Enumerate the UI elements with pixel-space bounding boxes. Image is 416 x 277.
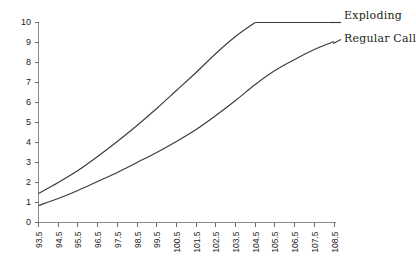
y-tick-label: 6 [26, 97, 31, 107]
y-tick-label: 8 [26, 57, 31, 67]
x-tick-label: 107.5 [310, 231, 320, 253]
legend-swatch-regular-call [333, 40, 341, 44]
y-tick-label: 1 [26, 197, 31, 207]
x-tick-label: 101.5 [192, 231, 202, 253]
x-tick-label: 97.5 [113, 231, 123, 248]
y-tick-label: 4 [26, 137, 31, 147]
series-layer [39, 23, 335, 206]
x-tick-label: 104.5 [251, 231, 261, 253]
legend-label-exploding: Exploding [344, 9, 402, 22]
legend-swatches [330, 23, 341, 44]
y-tick-label: 2 [26, 177, 31, 187]
x-tick-label: 102.5 [211, 231, 221, 253]
x-tick-label: 100.5 [172, 231, 182, 253]
y-tick-label: 9 [26, 37, 31, 47]
x-tick-label: 105.5 [270, 231, 280, 253]
y-tick-label: 10 [21, 17, 31, 27]
y-tick-label: 3 [26, 157, 31, 167]
x-tick-label: 95.5 [73, 231, 83, 248]
x-tick-label: 103.5 [231, 231, 241, 253]
series-line-1 [39, 42, 335, 206]
legend-label-regular-call: Regular Call [344, 32, 416, 45]
y-tick-label: 7 [26, 77, 31, 87]
x-axis: 93.594.595.596.597.598.599.5100.5101.510… [34, 223, 340, 253]
x-tick-label: 94.5 [54, 231, 64, 248]
x-tick-label: 106.5 [290, 231, 300, 253]
x-tick-label: 108.5 [330, 231, 340, 253]
series-line-0 [39, 23, 256, 194]
x-tick-label: 98.5 [133, 231, 143, 248]
x-tick-label: 96.5 [93, 231, 103, 248]
x-tick-label: 93.5 [34, 231, 44, 248]
x-tick-label: 99.5 [152, 231, 162, 248]
y-tick-label: 5 [26, 117, 31, 127]
y-tick-label: 0 [26, 217, 31, 227]
y-axis: 012345678910 [21, 17, 39, 227]
